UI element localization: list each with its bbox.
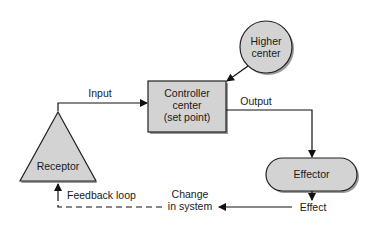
change-line2: in system	[163, 200, 217, 212]
receptor-label: Receptor	[20, 160, 96, 172]
controller-line3: (set point)	[148, 111, 226, 123]
higher-to-controller-arrow	[227, 66, 248, 81]
controller-line1: Controller	[148, 87, 226, 99]
change-in-system-label: Change in system	[163, 188, 217, 212]
controller-center-label: Controller center (set point)	[148, 87, 226, 123]
higher-center-line2: center	[240, 47, 292, 59]
feedback-loop-label: Feedback loop	[67, 189, 136, 201]
output-label: Output	[234, 95, 278, 107]
higher-center-line1: Higher	[240, 35, 292, 47]
effect-label: Effect	[296, 201, 330, 213]
output-arrow	[226, 110, 312, 157]
input-label: Input	[82, 87, 118, 99]
higher-center-label: Higher center	[240, 35, 292, 59]
change-line1: Change	[163, 188, 217, 200]
receptor-node	[20, 112, 97, 183]
controller-line2: center	[148, 99, 226, 111]
effector-label: Effector	[266, 168, 357, 180]
input-arrow	[58, 103, 147, 111]
